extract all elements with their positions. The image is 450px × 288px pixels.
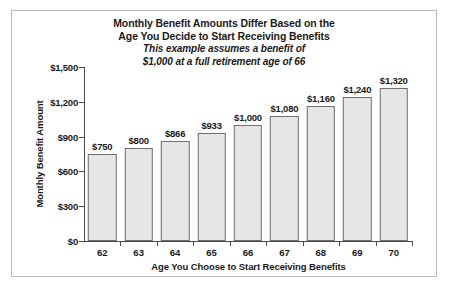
bar-group: $1,160 — [303, 67, 339, 241]
x-axis-tick-mark — [303, 242, 304, 246]
bar-group: $933 — [193, 67, 229, 241]
chart-title-line-2: Age You Decide to Start Receiving Benefi… — [12, 30, 436, 43]
x-axis-tick-mark — [339, 242, 340, 246]
bar-value-label: $1,240 — [343, 84, 371, 95]
x-axis-tick-label: 67 — [279, 247, 290, 258]
x-axis-tick-label: 62 — [97, 247, 108, 258]
x-axis-tick-label: 66 — [243, 247, 254, 258]
x-axis-tick-mark — [157, 242, 158, 246]
bar-group: $1,240 — [339, 67, 375, 241]
x-axis-label: Age You Choose to Start Receiving Benefi… — [84, 261, 413, 272]
x-axis-tick-mark — [266, 242, 267, 246]
bar[interactable] — [307, 106, 335, 241]
x-axis-tick-label: 69 — [352, 247, 363, 258]
bar-value-label: $800 — [128, 135, 148, 146]
bar-value-label: $933 — [201, 120, 221, 131]
x-axis-line — [84, 241, 413, 242]
x-axis-tick-label: 63 — [133, 247, 144, 258]
chart-subtitle-line-1: This example assumes a benefit of — [12, 43, 436, 56]
bar-value-label: $1,000 — [234, 112, 262, 123]
bar[interactable] — [197, 133, 225, 241]
x-axis-tick-label: 70 — [388, 247, 399, 258]
y-axis-label: Monthly Benefit Amount — [34, 67, 48, 241]
bar[interactable] — [161, 141, 189, 241]
chart-title-block: Monthly Benefit Amounts Differ Based on … — [12, 17, 436, 68]
x-axis-tick-label: 65 — [206, 247, 217, 258]
x-axis-tick-label: 64 — [170, 247, 181, 258]
plot-area: $0$300$600$900$1,200$1,500$750$800$866$9… — [84, 67, 412, 241]
bar[interactable] — [343, 97, 371, 241]
x-axis-tick-mark — [376, 242, 377, 246]
bar[interactable] — [380, 88, 408, 241]
bar-value-label: $750 — [92, 141, 112, 152]
bar[interactable] — [124, 148, 152, 241]
y-axis-tick-mark — [79, 241, 84, 242]
chart-frame: Monthly Benefit Amounts Differ Based on … — [11, 10, 437, 277]
bar-group: $750 — [84, 67, 120, 241]
x-axis-tick-mark — [193, 242, 194, 246]
bar-value-label: $1,320 — [380, 75, 408, 86]
x-axis-tick-mark — [120, 242, 121, 246]
chart-title-line-1: Monthly Benefit Amounts Differ Based on … — [12, 17, 436, 30]
bar-value-label: $1,160 — [307, 93, 335, 104]
x-axis-tick-mark — [412, 242, 413, 246]
bar[interactable] — [270, 116, 298, 241]
bar-group: $800 — [120, 67, 156, 241]
bar[interactable] — [234, 125, 262, 241]
x-axis-tick-mark — [230, 242, 231, 246]
bar-group: $1,000 — [230, 67, 266, 241]
bar-group: $1,320 — [376, 67, 412, 241]
bar-value-label: $866 — [165, 128, 185, 139]
bar-value-label: $1,080 — [271, 103, 299, 114]
bar-group: $1,080 — [266, 67, 302, 241]
bar[interactable] — [88, 154, 116, 241]
x-axis-tick-label: 68 — [316, 247, 327, 258]
bar-group: $866 — [157, 67, 193, 241]
